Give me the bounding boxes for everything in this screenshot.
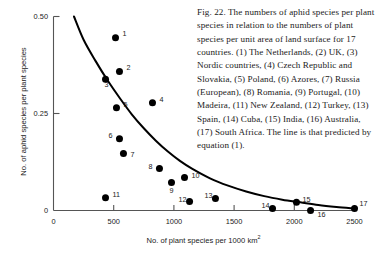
figure-container: No. of aphid species per plant species N… <box>0 0 379 255</box>
data-point-label-1: 1 <box>123 29 127 38</box>
data-point-label-2: 2 <box>126 63 130 72</box>
x-tick-label: 0 <box>34 217 74 226</box>
data-point-2 <box>116 68 123 75</box>
data-point-label-16: 16 <box>318 210 326 219</box>
data-point-label-9: 9 <box>169 186 173 195</box>
data-point-label-15: 15 <box>302 195 310 204</box>
x-tick-label: 1500 <box>214 217 254 226</box>
data-point-15 <box>293 199 300 206</box>
x-axis-label: No. of plant species per 1000 km2 <box>53 234 354 245</box>
data-point-10 <box>181 174 188 181</box>
data-point-6 <box>116 135 123 142</box>
data-point-label-11: 11 <box>113 190 120 199</box>
data-point-label-17: 17 <box>360 199 368 208</box>
data-point-label-4: 4 <box>159 95 163 104</box>
data-point-label-10: 10 <box>191 171 199 180</box>
data-point-16 <box>307 207 314 214</box>
data-point-8 <box>156 165 163 172</box>
figure-caption: Fig. 22. The numbers of aphid species pe… <box>197 6 375 153</box>
data-point-1 <box>112 34 119 41</box>
data-point-label-5: 5 <box>123 100 127 109</box>
data-point-17 <box>351 205 358 212</box>
data-point-11 <box>102 194 109 201</box>
data-point-5 <box>113 104 120 111</box>
data-point-label-14: 14 <box>262 201 270 210</box>
y-tick-label: 0.25 <box>12 109 48 118</box>
data-point-label-12: 12 <box>179 195 187 204</box>
data-point-7 <box>120 150 127 157</box>
data-point-12 <box>186 198 193 205</box>
x-tick-label: 2000 <box>274 217 314 226</box>
x-tick-label: 1000 <box>154 217 194 226</box>
data-point-label-8: 8 <box>148 162 152 171</box>
x-tick-label: 500 <box>94 217 134 226</box>
data-point-label-3: 3 <box>105 80 109 89</box>
x-axis-label-text: No. of plant species per 1000 km <box>146 236 257 245</box>
data-point-label-6: 6 <box>108 131 112 140</box>
data-point-14 <box>269 205 276 212</box>
x-tick-label: 2500 <box>335 217 375 226</box>
data-point-4 <box>149 99 156 106</box>
data-point-9 <box>168 179 175 186</box>
data-point-13 <box>212 195 219 202</box>
y-tick-label: 0.50 <box>12 12 48 21</box>
y-tick-label: 0 <box>12 206 48 215</box>
data-point-label-7: 7 <box>130 150 134 159</box>
x-axis-label-superscript: 2 <box>258 234 261 240</box>
data-point-label-13: 13 <box>204 191 212 200</box>
